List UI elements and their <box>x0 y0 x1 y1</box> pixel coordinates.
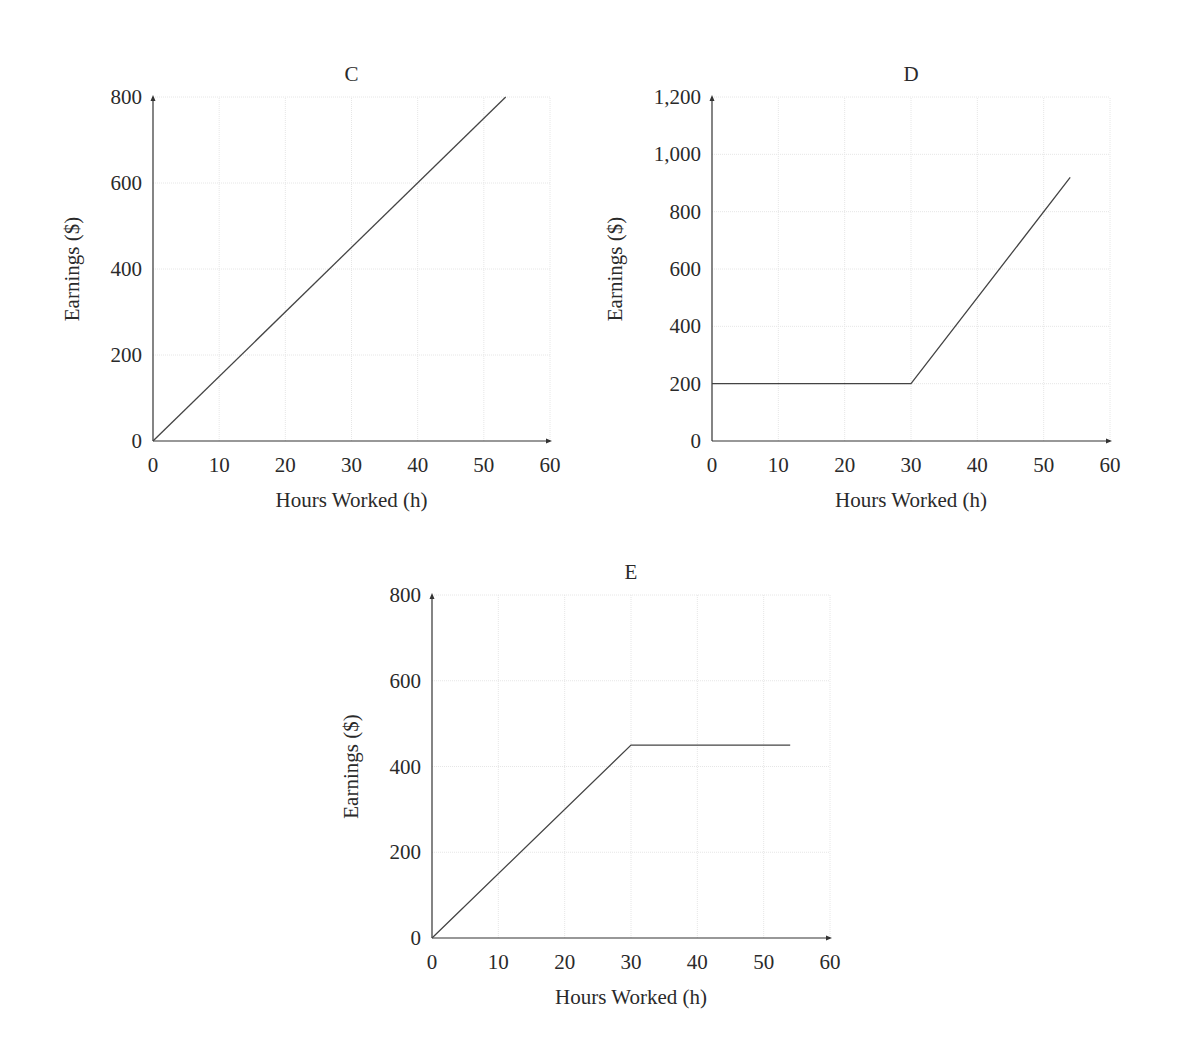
y-tick-label: 800 <box>670 200 702 224</box>
y-tick-label: 400 <box>111 257 143 281</box>
x-axis-arrow-icon <box>826 936 832 941</box>
x-tick-label: 40 <box>407 453 428 477</box>
x-tick-label: 60 <box>1100 453 1121 477</box>
x-tick-label: 60 <box>540 453 561 477</box>
y-tick-label: 800 <box>111 85 143 109</box>
x-tick-label: 50 <box>473 453 494 477</box>
x-axis-label: Hours Worked (h) <box>835 488 987 512</box>
x-tick-label: 40 <box>967 453 988 477</box>
grid <box>153 97 550 441</box>
y-tick-label: 400 <box>390 755 422 779</box>
grid <box>712 97 1110 441</box>
y-tick-label: 200 <box>111 343 143 367</box>
x-tick-label: 20 <box>554 950 575 974</box>
x-axis-arrow-icon <box>546 439 552 444</box>
y-axis-arrow-icon <box>710 95 715 101</box>
y-tick-label: 1,000 <box>654 142 701 166</box>
x-tick-label: 30 <box>621 950 642 974</box>
grid <box>432 595 830 938</box>
y-tick-label: 0 <box>132 429 143 453</box>
y-axis-label: Earnings ($) <box>603 217 627 321</box>
x-axis-label: Hours Worked (h) <box>276 488 428 512</box>
x-tick-label: 60 <box>820 950 841 974</box>
chart-panel-d: 010203040506002004006008001,0001,200DHou… <box>603 62 1121 512</box>
x-tick-label: 10 <box>768 453 789 477</box>
chart-panel-c: 01020304050600200400600800CHours Worked … <box>60 62 561 512</box>
y-tick-label: 0 <box>691 429 702 453</box>
y-axis-label: Earnings ($) <box>339 714 363 818</box>
y-tick-label: 0 <box>411 926 422 950</box>
x-tick-label: 20 <box>834 453 855 477</box>
x-tick-label: 20 <box>275 453 296 477</box>
x-tick-label: 30 <box>341 453 362 477</box>
y-tick-label: 200 <box>390 840 422 864</box>
chart-title: D <box>903 62 918 86</box>
x-tick-label: 30 <box>901 453 922 477</box>
y-tick-label: 1,200 <box>654 85 701 109</box>
x-tick-label: 40 <box>687 950 708 974</box>
x-tick-label: 10 <box>488 950 509 974</box>
chart-panel-e: 01020304050600200400600800EHours Worked … <box>339 560 841 1009</box>
figure: 01020304050600200400600800CHours Worked … <box>0 0 1182 1049</box>
y-axis-label: Earnings ($) <box>60 217 84 321</box>
chart-title: C <box>344 62 358 86</box>
x-tick-label: 0 <box>427 950 438 974</box>
data-line <box>712 177 1070 383</box>
x-tick-label: 50 <box>753 950 774 974</box>
chart-title: E <box>625 560 638 584</box>
x-axis-label: Hours Worked (h) <box>555 985 707 1009</box>
x-tick-label: 0 <box>148 453 159 477</box>
y-tick-label: 600 <box>111 171 143 195</box>
y-tick-label: 200 <box>670 372 702 396</box>
y-axis-arrow-icon <box>430 593 435 599</box>
x-axis-arrow-icon <box>1106 439 1112 444</box>
y-axis-arrow-icon <box>151 95 156 101</box>
x-tick-label: 50 <box>1033 453 1054 477</box>
y-tick-label: 400 <box>670 314 702 338</box>
x-tick-label: 10 <box>209 453 230 477</box>
data-line <box>432 745 790 938</box>
y-tick-label: 800 <box>390 583 422 607</box>
x-tick-label: 0 <box>707 453 718 477</box>
y-tick-label: 600 <box>390 669 422 693</box>
y-tick-label: 600 <box>670 257 702 281</box>
